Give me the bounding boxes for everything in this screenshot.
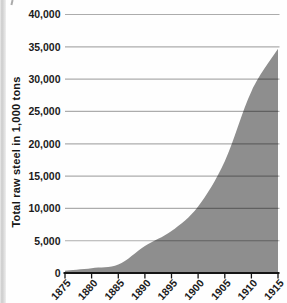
- y-axis-label-0: 0: [55, 267, 61, 279]
- x-axis-label-1880: 1880: [75, 277, 100, 303]
- steel-production-chart-page: Total raw steel in 1,000 tons 05,00010,0…: [0, 0, 287, 303]
- x-axis-label-1910: 1910: [235, 277, 260, 303]
- y-axis-label-20000: 20,000: [28, 138, 60, 150]
- y-axis-label-35000: 35,000: [28, 41, 60, 53]
- steel-area-chart: 05,00010,00015,00020,00025,00030,00035,0…: [0, 0, 287, 303]
- x-axis-label-1895: 1895: [155, 277, 180, 303]
- y-axis-label-25000: 25,000: [28, 105, 60, 117]
- x-axis-label-1875: 1875: [48, 277, 73, 303]
- x-axis-label-1905: 1905: [208, 277, 233, 303]
- y-axis-label-30000: 30,000: [28, 73, 60, 85]
- x-axis-label-1900: 1900: [182, 277, 207, 303]
- y-axis-label-15000: 15,000: [28, 170, 60, 182]
- y-axis-label-5000: 5,000: [34, 235, 60, 247]
- x-axis-label-1885: 1885: [102, 277, 127, 303]
- x-axis-label-1915: 1915: [261, 277, 286, 303]
- area-fill-steel-series: [65, 49, 278, 273]
- y-axis-label-10000: 10,000: [28, 202, 60, 214]
- x-axis-label-1890: 1890: [128, 277, 153, 303]
- y-axis-label-40000: 40,000: [28, 8, 60, 20]
